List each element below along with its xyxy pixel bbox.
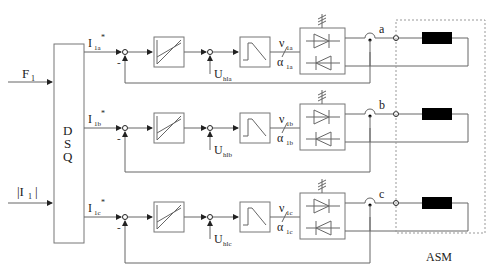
disturbance-sub: hlb: [223, 151, 232, 159]
nu-label: ν: [279, 201, 285, 215]
phase-row-b: I1b*-Uhlbν1bα1bb: [84, 90, 468, 172]
dsq-line-q: Q: [63, 149, 73, 164]
alpha-sub: 1b: [286, 139, 294, 147]
ref-label: I: [88, 201, 92, 215]
terminal-label: c: [379, 187, 384, 201]
stator-winding: [422, 32, 452, 44]
terminal-label: a: [379, 22, 385, 36]
nu-label: ν: [279, 112, 285, 126]
minus-sign: -: [117, 132, 121, 144]
disturbance-label: U: [214, 67, 223, 81]
summing-junction-2: [208, 215, 213, 220]
disturbance-label: U: [214, 143, 223, 157]
flux-input: F 1: [8, 66, 52, 83]
ref-sub: 1c: [94, 209, 101, 217]
ref-sub: 1a: [94, 44, 102, 52]
flux-sub: 1: [31, 74, 35, 83]
minus-sign: -: [117, 221, 121, 233]
thyristor-converter-block: [300, 104, 345, 150]
summing-junction-2: [208, 126, 213, 131]
alpha-sub: 1c: [286, 228, 293, 236]
summing-junction: [123, 215, 128, 220]
ref-sup: *: [101, 198, 105, 207]
current-magnitude-input: |I 1 |: [8, 184, 52, 203]
summing-junction: [123, 50, 128, 55]
nu-sub: 1b: [286, 120, 294, 128]
stator-winding: [422, 108, 452, 120]
phase-row-a: I1a*-Uhlaν1aα1aa: [84, 14, 468, 83]
alpha-label: α: [277, 220, 284, 234]
limiter-block: [240, 202, 270, 232]
stator-winding: [422, 197, 452, 209]
limiter-block: [240, 113, 270, 143]
current-mag-tail: |: [35, 184, 38, 199]
dsq-block: D S Q: [54, 44, 84, 243]
disturbance-label: U: [214, 232, 223, 246]
control-diagram: F 1 |I 1 | D S Q I1a*-Uhlaν1aα1aaI1b*-Uh…: [0, 0, 492, 271]
ref-label: I: [88, 112, 92, 126]
alpha-label: α: [277, 131, 284, 145]
nu-label: ν: [279, 36, 285, 50]
nu-sub: 1c: [286, 209, 293, 217]
disturbance-sub: hla: [223, 75, 232, 83]
alpha-label: α: [277, 55, 284, 69]
current-mag-label: |I: [17, 184, 24, 199]
flux-label: F: [22, 66, 29, 81]
phase-row-c: I1c*-Uhlcν1cα1cc: [84, 179, 468, 263]
thyristor-converter-block: [300, 28, 345, 74]
alpha-sub: 1a: [286, 63, 294, 71]
disturbance-sub: hlc: [223, 240, 232, 248]
ref-sup: *: [101, 109, 105, 118]
limiter-block: [240, 37, 270, 67]
minus-sign: -: [117, 56, 121, 68]
ref-sup: *: [101, 33, 105, 42]
nu-sub: 1a: [286, 44, 294, 52]
summing-junction: [123, 126, 128, 131]
current-mag-sub: 1: [28, 192, 32, 201]
thyristor-converter-block: [300, 193, 345, 239]
asm-label: ASM: [426, 250, 452, 264]
ref-sub: 1b: [94, 120, 102, 128]
ref-label: I: [88, 36, 92, 50]
terminal-label: b: [379, 98, 385, 112]
summing-junction-2: [208, 50, 213, 55]
